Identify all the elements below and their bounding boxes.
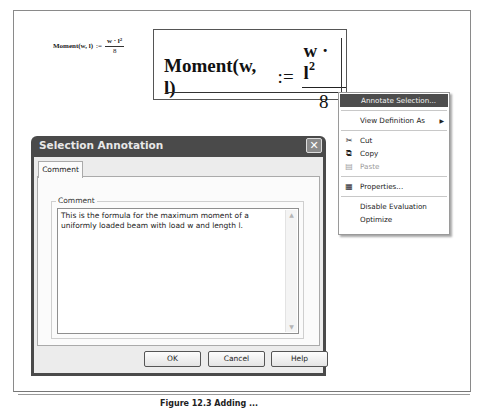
comment-text: This is the formula for the maximum mome…	[61, 211, 281, 231]
formula-fraction: w · l2 8	[105, 37, 124, 55]
menu-item-annotate-selection[interactable]: Annotate Selection...	[340, 94, 448, 107]
menu-item-properties[interactable]: ▦Properties...	[339, 180, 449, 193]
dialog-title: Selection Annotation	[39, 139, 163, 151]
comment-tab-panel: Comment This is the formula for the maxi…	[37, 176, 320, 346]
selected-formula-region[interactable]: Moment(w, l) := w · l2 8	[153, 29, 347, 100]
selection-underline	[166, 92, 342, 93]
selection-annotation-dialog: Selection Annotation ✕ Comment Comment T…	[31, 136, 326, 376]
vertical-scrollbar[interactable]: ▲ ▼	[285, 210, 297, 332]
copy-icon: ⧉	[343, 147, 355, 160]
menu-item-paste: ▤Paste	[339, 160, 449, 173]
menu-separator	[341, 196, 447, 197]
properties-icon: ▦	[343, 180, 355, 193]
menu-item-cut[interactable]: ✂Cut	[339, 134, 449, 147]
formula-lhs: Moment(w, l)	[53, 42, 93, 50]
menu-item-optimize[interactable]: Optimize	[339, 213, 449, 226]
scroll-up-icon[interactable]: ▲	[286, 210, 297, 220]
formula-numerator: w · l2	[302, 40, 346, 88]
formula-numerator: w · l2	[105, 37, 124, 47]
formula-assign: :=	[96, 42, 102, 50]
small-formula[interactable]: Moment(w, l) := w · l2 8	[53, 37, 124, 55]
close-icon: ✕	[309, 139, 318, 152]
selection-cursor	[341, 38, 342, 93]
ok-button[interactable]: OK	[144, 351, 201, 367]
dialog-titlebar[interactable]: Selection Annotation ✕	[34, 136, 323, 157]
figure-caption: Figure 12.3 Adding ...	[160, 399, 258, 408]
cancel-button[interactable]: Cancel	[208, 351, 265, 367]
formula-denominator: 8	[113, 47, 117, 55]
comment-groupbox: Comment This is the formula for the maxi…	[51, 201, 304, 339]
context-menu: Annotate Selection... View Definition As…	[338, 92, 450, 235]
formula-assign: :=	[278, 66, 294, 88]
help-button[interactable]: Help	[271, 351, 328, 367]
menu-item-copy[interactable]: ⧉Copy	[339, 147, 449, 160]
close-button[interactable]: ✕	[306, 138, 322, 153]
menu-separator	[341, 176, 447, 177]
tab-comment[interactable]: Comment	[38, 161, 83, 178]
comment-group-label: Comment	[56, 196, 97, 205]
big-formula: Moment(w, l) := w · l2 8	[164, 40, 346, 113]
comment-textarea[interactable]: This is the formula for the maximum mome…	[57, 208, 299, 334]
menu-item-view-definition-as[interactable]: View Definition As▶	[339, 114, 449, 127]
dialog-body: Comment Comment This is the formula for …	[34, 157, 323, 373]
menu-separator	[341, 110, 447, 111]
paste-icon: ▤	[343, 160, 355, 173]
menu-item-disable-evaluation[interactable]: Disable Evaluation	[339, 200, 449, 213]
scroll-down-icon[interactable]: ▼	[286, 322, 297, 332]
menu-separator	[341, 130, 447, 131]
caption-divider	[18, 394, 470, 395]
scissors-icon: ✂	[343, 134, 355, 147]
submenu-arrow-icon: ▶	[439, 114, 444, 127]
